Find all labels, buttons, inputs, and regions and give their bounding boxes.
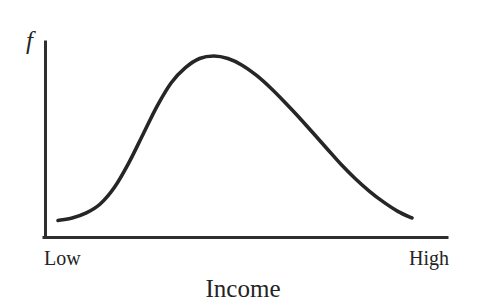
- x-axis-low-label: Low: [44, 247, 81, 269]
- density-curve: [58, 56, 412, 221]
- x-axis-title: Income: [206, 275, 281, 302]
- x-axis-high-label: High: [409, 247, 449, 270]
- distribution-chart-canvas: f Low High Income: [0, 0, 478, 305]
- income-distribution-figure: f Low High Income: [0, 0, 478, 305]
- y-axis-symbol-label: f: [26, 27, 36, 54]
